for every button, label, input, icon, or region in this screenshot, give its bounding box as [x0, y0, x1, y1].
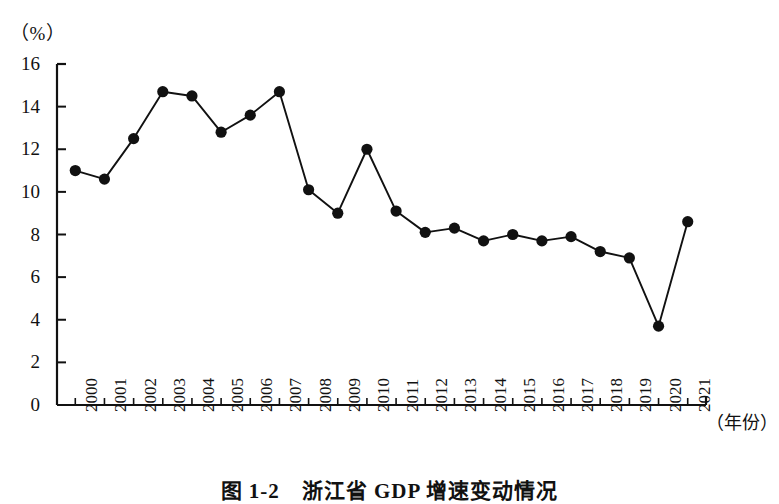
data-point-marker: [99, 173, 110, 184]
y-axis-tick-label: 8: [6, 224, 40, 246]
series-line: [75, 92, 687, 326]
x-axis-tick-label: 2010: [374, 378, 394, 412]
x-axis-tick-label: 2019: [636, 378, 656, 412]
data-point-marker: [332, 208, 343, 219]
data-point-marker: [303, 184, 314, 195]
data-point-marker: [478, 235, 489, 246]
data-point-marker: [595, 246, 606, 257]
axes-group: [57, 64, 706, 405]
y-axis-tick-label: 4: [6, 309, 40, 331]
data-point-marker: [536, 235, 547, 246]
data-point-marker: [245, 110, 256, 121]
x-axis-tick-label: 2020: [666, 378, 686, 412]
data-series-line: [75, 92, 687, 326]
x-axis-tick-label: 2011: [403, 379, 423, 412]
x-axis-tick-label: 2001: [111, 378, 131, 412]
data-point-marker: [128, 133, 139, 144]
x-axis-tick-label: 2005: [228, 378, 248, 412]
x-axis-tick-label: 2014: [491, 378, 511, 412]
data-point-marker: [682, 216, 693, 227]
x-axis-tick-label: 2009: [345, 378, 365, 412]
x-axis-tick-label: 2000: [82, 378, 102, 412]
x-axis-tick-label: 2016: [549, 378, 569, 412]
figure-caption: 图 1-2 浙江省 GDP 增速变动情况: [0, 474, 779, 504]
y-axis-tick-label: 2: [6, 351, 40, 373]
y-axis-tick-label: 12: [6, 138, 40, 160]
x-axis-tick-label: 2018: [607, 378, 627, 412]
x-axis-tick-label: 2002: [141, 378, 161, 412]
x-axis-tick-label: 2007: [286, 378, 306, 412]
x-axis-tick-label: 2006: [257, 378, 277, 412]
y-axis-tick-label: 16: [6, 53, 40, 75]
data-point-marker: [361, 144, 372, 155]
data-point-marker: [70, 165, 81, 176]
x-axis-tick-label: 2013: [461, 378, 481, 412]
data-point-marker: [653, 321, 664, 332]
data-point-marker: [449, 223, 460, 234]
x-axis-title: （年份）: [706, 408, 778, 434]
data-point-marker: [157, 86, 168, 97]
y-axis-tick-label: 14: [6, 96, 40, 118]
data-point-marker: [390, 205, 401, 216]
data-markers: [70, 86, 694, 332]
x-axis-tick-label: 2008: [316, 378, 336, 412]
y-axis-tick-label: 6: [6, 266, 40, 288]
x-axis-tick-label: 2003: [170, 378, 190, 412]
data-point-marker: [565, 231, 576, 242]
x-axis-tick-label: 2015: [520, 378, 540, 412]
data-point-marker: [507, 229, 518, 240]
data-point-marker: [186, 90, 197, 101]
x-axis-tick-label: 2017: [578, 378, 598, 412]
data-point-marker: [420, 227, 431, 238]
x-axis-tick-label: 2021: [695, 378, 715, 412]
data-point-marker: [274, 86, 285, 97]
y-axis-tick-label: 10: [6, 181, 40, 203]
y-axis-tick-label: 0: [6, 394, 40, 416]
data-point-marker: [624, 252, 635, 263]
data-point-marker: [216, 127, 227, 138]
x-axis-tick-label: 2004: [199, 378, 219, 412]
x-axis-tick-label: 2012: [432, 378, 452, 412]
